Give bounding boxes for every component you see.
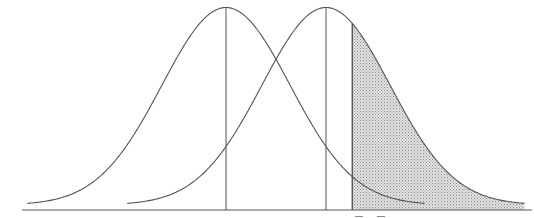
normal-distributions-diagram: [0, 0, 534, 218]
shaded-tail-region: [352, 23, 524, 210]
diagram-canvas: [0, 0, 534, 218]
